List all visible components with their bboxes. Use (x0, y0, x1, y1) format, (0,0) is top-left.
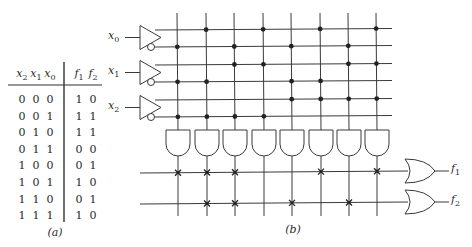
and-gate-icon (166, 130, 190, 156)
connection-dot-icon (289, 97, 294, 102)
connection-dot-icon (232, 62, 237, 67)
connection-dot-icon (346, 96, 351, 101)
connection-dot-icon (261, 27, 266, 32)
line-x2-not (155, 116, 393, 118)
input-label-x2: x2 (108, 100, 119, 114)
connection-dot-icon (234, 202, 237, 205)
line-x0-not (155, 46, 393, 48)
output-label-f1: f1 (451, 163, 460, 177)
connection-dot-icon (374, 61, 379, 66)
connection-dot-icon (234, 171, 237, 174)
inverter-bubble-icon (148, 79, 155, 86)
caption-b: (b) (285, 223, 301, 236)
connection-dot-icon (204, 27, 209, 32)
connection-dot-icon (346, 43, 351, 48)
output-label-f2: f2 (451, 194, 460, 208)
connection-dot-icon (204, 79, 209, 84)
connection-dot-icon (348, 201, 351, 204)
and-gate-icon (365, 130, 389, 156)
connection-dot-icon (289, 79, 294, 84)
connection-dot-icon (318, 97, 323, 102)
product-term-line (348, 13, 349, 131)
product-term-line (177, 13, 178, 131)
input-label-x1: x1 (108, 65, 119, 79)
connection-dot-icon (318, 27, 323, 32)
connection-dot-icon (374, 96, 379, 101)
connection-dot-icon (175, 114, 180, 119)
inverter-bubble-icon (148, 114, 155, 121)
connection-dot-icon (261, 62, 266, 67)
connection-dot-icon (204, 114, 209, 119)
or-gate-icon (405, 190, 435, 214)
and-gate-icon (309, 130, 333, 156)
connection-dot-icon (318, 79, 323, 84)
connection-dot-icon (374, 26, 379, 31)
connection-dot-icon (376, 170, 379, 173)
connection-dot-icon (291, 201, 294, 204)
line-x0 (155, 29, 392, 31)
and-gate-icon (223, 130, 247, 156)
connection-dot-icon (346, 61, 351, 66)
pla-circuit-diagram (0, 0, 472, 247)
or-input-line-f2 (140, 202, 408, 204)
connection-dot-icon (320, 170, 323, 173)
and-gate-icon (252, 130, 276, 156)
connection-dot-icon (289, 44, 294, 49)
line-x1 (155, 64, 392, 66)
line-x2 (155, 99, 392, 101)
connection-dot-icon (206, 171, 209, 174)
and-gate-icon (280, 130, 304, 156)
connection-dot-icon (206, 202, 209, 205)
connection-dot-icon (232, 44, 237, 49)
product-term-line (291, 13, 292, 131)
input-label-x0: x0 (108, 30, 119, 44)
connection-dot-icon (175, 79, 180, 84)
and-gate-icon (337, 130, 361, 156)
inverter-bubble-icon (148, 44, 155, 51)
connection-dot-icon (175, 44, 180, 49)
connection-dot-icon (261, 114, 266, 119)
product-term-line (234, 13, 235, 131)
or-gate-icon (405, 159, 435, 183)
and-gate-icon (195, 130, 219, 156)
line-x1-not (155, 81, 393, 83)
connection-dot-icon (232, 114, 237, 119)
connection-dot-icon (177, 171, 180, 174)
